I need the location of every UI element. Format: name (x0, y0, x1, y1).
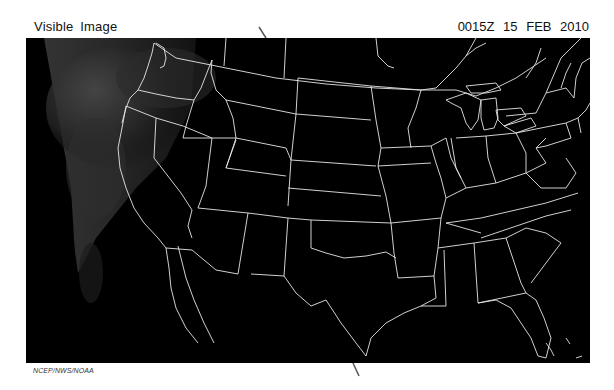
map-svg (26, 38, 590, 363)
bottom-tick-mark (350, 362, 364, 378)
satellite-map[interactable] (26, 38, 590, 363)
product-title: Visible Image (34, 19, 117, 34)
valid-time: 0015Z 15 FEB 2010 (458, 19, 589, 34)
credit-label: NCEP/NWS/NOAA (33, 367, 94, 374)
